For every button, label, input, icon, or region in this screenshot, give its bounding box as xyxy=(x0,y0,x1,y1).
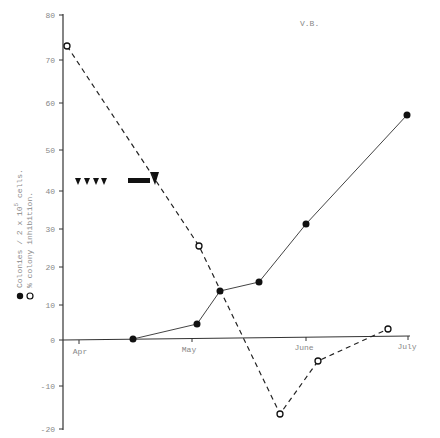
inhibition-line xyxy=(67,46,388,414)
data-point xyxy=(196,243,202,249)
svg-text:0: 0 xyxy=(50,336,55,345)
y-axis-label: Colonies / 2 x 105 cells. % colony inhib… xyxy=(13,169,34,288)
triangle-marker-icon xyxy=(93,178,99,185)
triangle-marker-icon xyxy=(75,178,81,185)
treatment-bar xyxy=(128,178,150,183)
svg-text:80: 80 xyxy=(45,11,55,20)
svg-text:30: 30 xyxy=(45,225,55,234)
svg-text:May: May xyxy=(182,345,197,354)
legend-open-circle-icon xyxy=(27,293,33,299)
svg-text:Apr: Apr xyxy=(73,347,88,356)
data-point xyxy=(64,43,70,49)
annotation-vb: V.B. xyxy=(300,19,319,28)
svg-text:60: 60 xyxy=(45,99,55,108)
data-point xyxy=(315,358,321,364)
svg-text:10: 10 xyxy=(45,301,55,310)
treatment-markers xyxy=(75,172,159,185)
x-tick-labels: Apr May June July xyxy=(73,342,417,356)
svg-text:40: 40 xyxy=(45,187,55,196)
data-point xyxy=(130,336,137,343)
svg-text:Colonies / 2 x 105 cells.: Colonies / 2 x 105 cells. xyxy=(13,169,24,288)
svg-text:% colony inhibition.: % colony inhibition. xyxy=(25,192,34,288)
data-point xyxy=(303,221,310,228)
data-point xyxy=(404,112,411,119)
svg-text:-20: -20 xyxy=(41,425,56,434)
colonies-line xyxy=(133,115,407,339)
data-point xyxy=(277,411,283,417)
y-tick-labels: 80 70 60 50 40 30 20 10 0 -10 -20 xyxy=(41,11,56,434)
triangle-marker-icon xyxy=(101,178,107,185)
x-axis xyxy=(63,336,410,340)
svg-text:20: 20 xyxy=(45,263,55,272)
triangle-marker-icon xyxy=(84,178,90,185)
svg-text:July: July xyxy=(397,342,416,351)
svg-text:-10: -10 xyxy=(41,382,56,391)
data-point xyxy=(217,288,224,295)
colonies-points xyxy=(130,112,411,343)
svg-text:June: June xyxy=(294,343,313,352)
data-point xyxy=(256,279,263,286)
legend-filled-circle-icon xyxy=(17,293,23,299)
svg-text:70: 70 xyxy=(45,56,55,65)
chart: 80 70 60 50 40 30 20 10 0 -10 -20 Apr Ma… xyxy=(0,0,440,438)
svg-text:50: 50 xyxy=(45,146,55,155)
data-point xyxy=(194,321,201,328)
inhibition-points xyxy=(64,43,391,417)
data-point xyxy=(385,326,391,332)
